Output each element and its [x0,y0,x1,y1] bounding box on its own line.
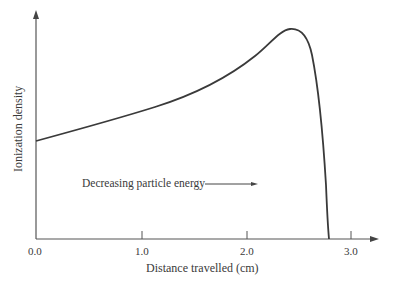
annotation-text: Decreasing particle energy [82,177,205,190]
tick-label-0: 0.0 [28,245,42,257]
annotation-arrow-icon [251,182,258,186]
y-axis-label: Ionization density [11,86,25,172]
x-ticks [142,231,351,239]
bragg-curve-chart: 0.0 1.0 2.0 3.0 Distance travelled (cm) … [0,0,397,283]
x-axis-arrow-icon [370,236,379,242]
tick-label-3: 3.0 [344,245,358,257]
tick-label-2: 2.0 [240,245,254,257]
x-axis-label: Distance travelled (cm) [146,261,259,275]
bragg-curve-line [36,29,329,239]
tick-label-1: 1.0 [135,245,149,257]
y-axis-arrow-icon [33,10,39,19]
